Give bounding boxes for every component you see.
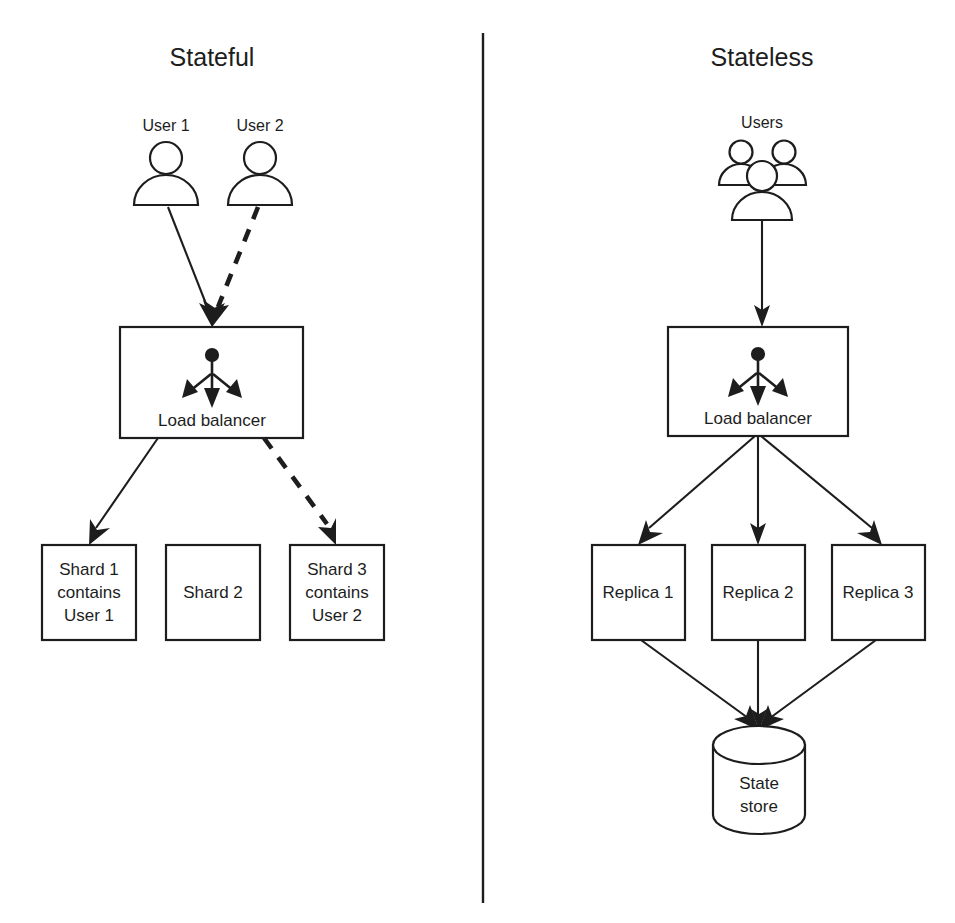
shard-3-line-3: User 2: [312, 606, 362, 625]
edge-replica-1-to-state-store: [641, 640, 759, 730]
panel-title-stateless: Stateless: [711, 43, 814, 71]
shard-node-2: Shard 2: [166, 545, 260, 640]
edge-users-to-load-balancer: [754, 221, 770, 327]
panel-title-stateful: Stateful: [170, 43, 255, 71]
shard-node-1: Shard 1 contains User 1: [42, 545, 136, 640]
replica-1-label: Replica 1: [603, 583, 674, 602]
stateful-stateless-diagram: Stateful Stateless User 1 User 2: [0, 0, 955, 923]
shard-1-line-1: Shard 1: [59, 560, 119, 579]
replica-node-1: Replica 1: [592, 545, 685, 640]
edge-load-balancer-to-replica-1: [638, 436, 755, 545]
single-user-icon: [228, 142, 292, 205]
edge-user2-to-load-balancer: [203, 207, 258, 327]
shard-1-line-2: contains: [57, 583, 120, 602]
shard-node-3: Shard 3 contains User 2: [290, 545, 384, 640]
single-user-icon: [134, 142, 198, 205]
actor-label-users: Users: [741, 114, 783, 131]
replica-node-2: Replica 2: [712, 545, 805, 640]
shard-3-line-2: contains: [305, 583, 368, 602]
load-balancer-label: Load balancer: [158, 411, 266, 430]
actor-label-user-1: User 1: [142, 117, 189, 134]
load-balancer-node-stateful: Load balancer: [120, 327, 303, 438]
edge-load-balancer-to-replica-3: [761, 436, 882, 545]
replica-node-3: Replica 3: [832, 545, 925, 640]
edge-load-balancer-to-shard-3: [264, 438, 336, 545]
state-store-line-1: State: [739, 774, 779, 793]
edge-load-balancer-to-replica-2: [750, 436, 766, 545]
users-group-icon: [719, 141, 806, 221]
shard-3-line-1: Shard 3: [307, 560, 367, 579]
edge-load-balancer-to-shard-1: [89, 438, 158, 545]
replica-3-label: Replica 3: [843, 583, 914, 602]
edge-replica-3-to-state-store: [759, 640, 876, 730]
load-balancer-label: Load balancer: [704, 409, 812, 428]
diagram-canvas: Stateful Stateless User 1 User 2: [0, 0, 955, 923]
shard-1-line-3: User 1: [64, 606, 114, 625]
state-store-line-2: store: [740, 797, 778, 816]
load-balancer-node-stateless: Load balancer: [668, 327, 848, 436]
actor-label-user-2: User 2: [236, 117, 283, 134]
replica-2-label: Replica 2: [723, 583, 794, 602]
state-store-node: State store: [713, 726, 805, 834]
shard-2-line-1: Shard 2: [183, 583, 243, 602]
